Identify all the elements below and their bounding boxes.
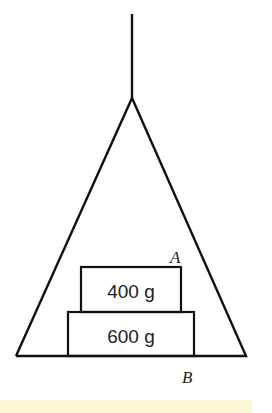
block-600g-label: 600 g [107,326,155,347]
point-b-label: B [182,368,193,387]
block-400g-label: 400 g [107,281,155,302]
diagram-canvas: 400 g 600 g A B [0,0,272,413]
triangular-frame [16,98,246,356]
bottom-highlight-strip [0,400,252,413]
point-a-label: A [169,248,181,267]
